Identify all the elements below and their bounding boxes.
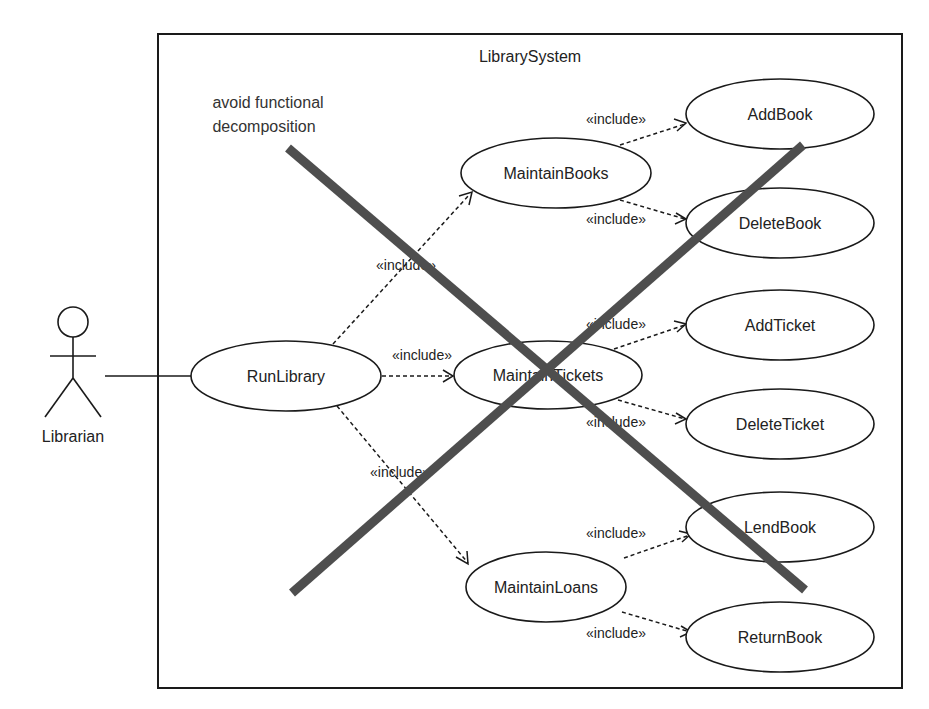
- arrowhead-icon: [674, 321, 686, 332]
- note-line-1: avoid functional: [212, 94, 323, 111]
- use-case-maintain-books[interactable]: MaintainBooks: [461, 138, 651, 208]
- system-title: LibrarySystem: [479, 48, 581, 65]
- use-case-add-book[interactable]: AddBook: [686, 79, 874, 149]
- arrowhead-icon: [456, 551, 468, 564]
- use-case-label: AddTicket: [745, 317, 816, 334]
- include-label-loans-return: «include»: [586, 625, 646, 641]
- include-label-books-add: «include»: [586, 111, 646, 127]
- dep-books-add: [620, 124, 685, 145]
- note-line-2: decomposition: [212, 118, 315, 135]
- use-case-label: MaintainLoans: [494, 579, 598, 596]
- use-case-run-library[interactable]: RunLibrary: [191, 341, 381, 411]
- use-case-label: DeleteBook: [739, 215, 823, 232]
- include-label-books-delete: «include»: [586, 211, 646, 227]
- use-case-label: ReturnBook: [738, 629, 823, 646]
- actor-label: Librarian: [42, 428, 104, 445]
- use-case-label: LendBook: [744, 519, 817, 536]
- use-case-delete-ticket[interactable]: DeleteTicket: [686, 389, 874, 459]
- use-case-label: AddBook: [748, 106, 814, 123]
- use-case-label: RunLibrary: [247, 368, 325, 385]
- use-case-return-book[interactable]: ReturnBook: [686, 602, 874, 672]
- use-case-maintain-loans[interactable]: MaintainLoans: [466, 552, 626, 622]
- note: avoid functional decomposition: [212, 94, 323, 135]
- use-case-label: MaintainBooks: [504, 165, 609, 182]
- use-case-add-ticket[interactable]: AddTicket: [686, 290, 874, 360]
- include-label-run-tickets: «include»: [392, 347, 452, 363]
- use-case-label: DeleteTicket: [736, 416, 825, 433]
- include-label-loans-lend: «include»: [586, 525, 646, 541]
- use-case-lend-book[interactable]: LendBook: [686, 492, 874, 562]
- use-case-diagram: LibrarySystem avoid functional decomposi…: [0, 0, 929, 709]
- arrowhead-icon: [675, 213, 686, 224]
- actor-librarian[interactable]: Librarian: [42, 307, 104, 445]
- stick-figure-icon: [45, 307, 101, 417]
